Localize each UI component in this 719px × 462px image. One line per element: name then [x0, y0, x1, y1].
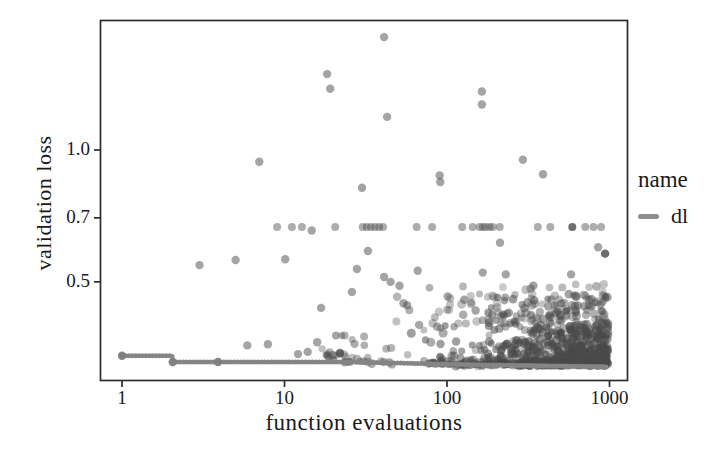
cluster-point: [341, 332, 349, 340]
data-point: [567, 270, 575, 278]
data-point: [348, 288, 356, 296]
cluster-point: [428, 319, 437, 328]
data-point: [556, 311, 564, 319]
legend: name dl: [638, 167, 688, 229]
line-bead: [167, 353, 172, 358]
band-point: [568, 223, 576, 231]
band-point: [273, 223, 281, 231]
band-point: [428, 223, 436, 231]
data-point: [317, 304, 325, 312]
cluster-point: [484, 356, 492, 364]
x-tick-label: 1000: [580, 387, 640, 409]
data-point: [502, 270, 510, 278]
cluster-point: [565, 347, 572, 354]
cluster-point: [360, 332, 368, 340]
cluster-point: [454, 319, 462, 327]
cluster-point: [548, 314, 556, 322]
data-point: [323, 70, 331, 78]
cluster-point: [472, 346, 480, 354]
cluster-point: [509, 295, 518, 304]
cluster-point: [514, 350, 522, 358]
cluster-point: [476, 291, 483, 298]
cluster-point: [525, 337, 533, 345]
scatter-plot-figure: validation loss function evaluations nam…: [0, 0, 719, 462]
data-point: [358, 184, 366, 192]
cluster-point: [426, 338, 435, 347]
line-knot: [214, 358, 222, 366]
cluster-point: [436, 340, 444, 348]
y-tick-label: 0.5: [36, 270, 90, 292]
cluster-point: [600, 311, 608, 319]
cluster-point: [393, 293, 402, 302]
cluster-point: [546, 284, 554, 292]
x-tick-label: 1: [92, 387, 152, 409]
data-point: [243, 341, 251, 349]
legend-title: name: [638, 167, 688, 193]
cluster-point: [603, 323, 612, 332]
cluster-point: [350, 340, 358, 348]
cluster-point: [462, 319, 470, 327]
cluster-point: [558, 300, 566, 308]
cluster-point: [559, 339, 567, 347]
band-point: [298, 223, 306, 231]
cluster-point: [382, 345, 390, 353]
cluster-point: [468, 299, 476, 307]
data-point: [478, 87, 486, 95]
data-point: [496, 239, 504, 247]
data-point: [587, 295, 595, 303]
data-point: [353, 265, 361, 273]
cluster-point: [499, 283, 507, 291]
data-point: [544, 302, 552, 310]
data-point: [195, 261, 203, 269]
data-point: [399, 299, 407, 307]
cluster-point: [596, 344, 605, 353]
cluster-point: [528, 311, 535, 318]
data-point: [264, 340, 272, 348]
band-point: [331, 223, 339, 231]
cluster-point: [426, 284, 434, 292]
data-point: [294, 350, 302, 358]
cluster-point: [319, 345, 326, 352]
cluster-point: [493, 299, 502, 308]
band-point: [458, 223, 466, 231]
cluster-point: [442, 322, 449, 329]
line-bead: [602, 364, 607, 369]
data-point: [255, 158, 263, 166]
data-point: [326, 85, 334, 93]
cluster-point: [548, 328, 555, 335]
cluster-point: [599, 298, 607, 306]
x-tick-label: 10: [255, 387, 315, 409]
data-point: [436, 178, 444, 186]
data-point: [471, 306, 479, 314]
cluster-point: [572, 281, 580, 289]
data-point: [313, 338, 321, 346]
data-point: [478, 100, 486, 108]
cluster-point: [459, 310, 468, 319]
cluster-point: [544, 295, 551, 302]
cluster-point: [497, 320, 504, 327]
cluster-point: [548, 340, 555, 347]
cluster-point: [594, 333, 603, 342]
cluster-point: [479, 341, 487, 349]
cluster-point: [596, 325, 603, 332]
x-tick-label: 100: [417, 387, 477, 409]
data-point: [380, 33, 388, 41]
data-point: [529, 282, 537, 290]
band-point: [597, 223, 605, 231]
cluster-point: [558, 284, 566, 292]
data-point: [519, 156, 527, 164]
cluster-point: [490, 326, 498, 334]
cluster-point: [592, 282, 601, 291]
cluster-point: [415, 321, 423, 329]
cluster-point: [404, 351, 411, 358]
legend-entry-label: dl: [671, 203, 688, 229]
data-point: [520, 304, 528, 312]
data-point: [395, 282, 403, 290]
cluster-point: [501, 293, 509, 301]
band-point: [469, 223, 477, 231]
band-point: [489, 223, 497, 231]
cluster-point: [599, 280, 608, 289]
cluster-point: [503, 340, 512, 349]
data-point: [488, 311, 496, 319]
data-point: [580, 302, 588, 310]
